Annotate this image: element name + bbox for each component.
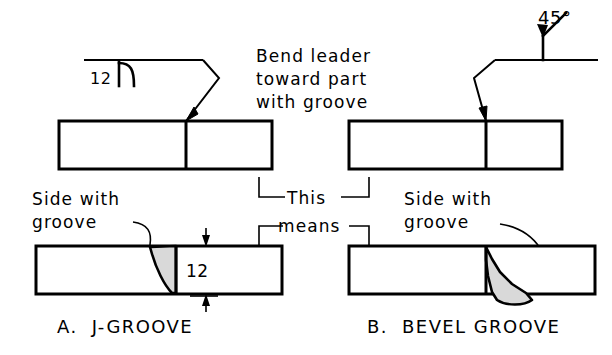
- leader-arrowhead-b: [479, 106, 487, 121]
- panel-a-side-label-leader: [133, 222, 150, 245]
- panel-a-caption: A. J-GROOVE: [57, 316, 193, 337]
- panel-b-side-label-line2: groove: [404, 212, 469, 232]
- this-bracket-right: [341, 177, 369, 197]
- panel-b-section-plate-outline: [349, 246, 595, 294]
- bend-leader-note: Bend leader toward part with groove: [256, 46, 371, 112]
- bend-leader-note-line2: toward part: [256, 69, 367, 89]
- figure-canvas: 12 Side with groove: [0, 0, 612, 355]
- panel-b-side-label-leader: [500, 224, 540, 248]
- panel-b-weld-symbol: 45°: [474, 7, 598, 121]
- panel-a-symbol-size: 12: [90, 69, 111, 88]
- panel-b-side-label-group: Side with groove: [404, 189, 540, 248]
- means-bracket-group: means: [259, 216, 369, 245]
- panel-a-weld-symbol: 12: [84, 60, 219, 121]
- panel-a-side-label-group: Side with groove: [32, 189, 150, 245]
- bend-leader-note-line1: Bend leader: [256, 46, 371, 66]
- means-label: means: [278, 216, 341, 236]
- panel-a-top-plate-outline: [59, 121, 272, 169]
- panel-b-caption: B. BEVEL GROOVE: [367, 316, 560, 337]
- welding-symbol-figure: 12 Side with groove: [0, 0, 612, 355]
- panel-a-section-plates: [36, 246, 282, 294]
- means-bracket-right: [349, 226, 369, 245]
- panel-b-top-plates: [349, 121, 562, 169]
- this-bracket-left: [259, 177, 285, 197]
- j-groove-symbol-icon: [119, 62, 134, 86]
- panel-b-angle-label: 45°: [538, 7, 571, 28]
- panel-a-top-plates: [59, 121, 272, 169]
- panel-a-side-label-line2: groove: [32, 212, 97, 232]
- panel-a-dimension-value: 12: [186, 261, 209, 281]
- panel-b-section-plates: [349, 246, 595, 305]
- bend-leader-note-line3: with groove: [256, 92, 368, 112]
- panel-a-side-label-line1: Side with: [32, 189, 120, 209]
- panel-b-top-plate-outline: [349, 121, 562, 169]
- panel-b-side-label-line1: Side with: [404, 189, 492, 209]
- this-bracket-group: This: [259, 177, 369, 208]
- this-label: This: [286, 188, 326, 208]
